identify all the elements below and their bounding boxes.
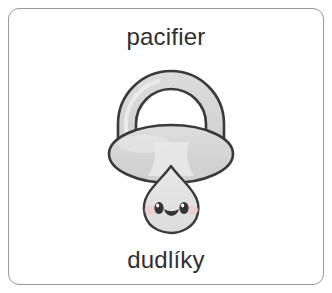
term-english-label: pacifier [0,23,332,51]
term-translation-label: dudlíky [0,246,332,274]
vocabulary-flashcard: pacifier [0,0,332,293]
pacifier-illustration [96,58,246,240]
